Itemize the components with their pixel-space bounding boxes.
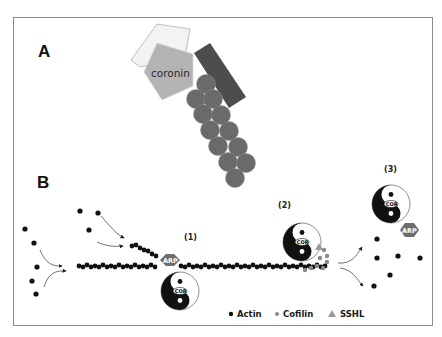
panel-a-label: A <box>38 42 50 61</box>
coronin-label: coronin <box>151 67 190 79</box>
actin-dot-icon <box>229 312 233 316</box>
coronin-yin-yang-1: COR <box>161 272 199 310</box>
coronin-yin-yang-3: COR <box>372 185 410 223</box>
cor-label-2: COR <box>297 239 309 245</box>
figure: A coronin B (1) (2) (3) <box>0 0 442 337</box>
panel-b-label: B <box>37 173 49 192</box>
cofilin-dot-icon <box>275 312 279 316</box>
legend: Actin Cofilin SSHL <box>229 309 365 319</box>
arp-label-3: ARP <box>402 227 417 235</box>
step-2-label: (2) <box>278 201 291 210</box>
coronin-yin-yang-2: COR <box>283 223 321 261</box>
cor-label-1: COR <box>175 288 187 294</box>
step-1-label: (1) <box>184 233 197 242</box>
legend-sshl-label: SSHL <box>340 309 365 319</box>
arp-label-1: ARP <box>163 257 178 265</box>
legend-actin-label: Actin <box>237 309 262 319</box>
legend-cofilin-label: Cofilin <box>283 309 313 319</box>
step-3-label: (3) <box>384 165 397 174</box>
cor-label-3: COR <box>386 201 398 207</box>
